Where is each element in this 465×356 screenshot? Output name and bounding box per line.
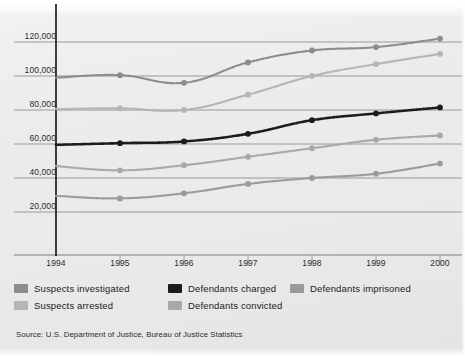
data-point-marker	[181, 80, 187, 86]
series-line	[56, 136, 440, 171]
chart-legend: Suspects investigatedSuspects arrestedDe…	[0, 283, 465, 323]
legend-label: Defendants charged	[188, 283, 276, 294]
x-tick-label: 1997	[238, 258, 257, 268]
x-tick-label: 1994	[46, 258, 65, 268]
data-point-marker	[437, 51, 443, 57]
data-point-marker	[437, 161, 443, 167]
x-tick-label: 1995	[110, 258, 129, 268]
series-line	[56, 164, 440, 199]
legend-color-swatch	[168, 284, 182, 293]
x-tick-label: 1996	[174, 258, 193, 268]
data-point-marker	[373, 137, 379, 143]
legend-item[interactable]: Suspects investigated	[14, 283, 130, 294]
series-defendants-convicted	[56, 133, 443, 174]
page-edge-bottom	[0, 348, 465, 356]
data-point-marker	[373, 171, 379, 177]
legend-item[interactable]: Defendants imprisoned	[290, 283, 411, 294]
data-point-marker	[309, 48, 315, 54]
data-point-marker	[117, 196, 123, 202]
data-point-marker	[373, 44, 379, 50]
legend-color-swatch	[14, 284, 28, 293]
data-point-marker	[245, 154, 251, 160]
y-tick-label: 100,000	[4, 65, 56, 75]
y-tick-label: 40,000	[4, 167, 56, 177]
y-axis-tick-labels: 20,00040,00060,00080,000100,000120,000	[0, 0, 56, 270]
data-point-marker	[373, 111, 379, 117]
legend-label: Suspects investigated	[34, 283, 130, 294]
legend-color-swatch	[14, 301, 28, 310]
data-point-marker	[437, 133, 443, 139]
legend-item[interactable]: Defendants convicted	[168, 300, 282, 311]
legend-label: Defendants convicted	[188, 300, 282, 311]
legend-color-swatch	[168, 301, 182, 310]
data-point-marker	[437, 36, 443, 42]
data-point-marker	[309, 145, 315, 151]
series-suspects-investigated	[56, 36, 443, 86]
data-point-marker	[437, 105, 443, 111]
data-point-marker	[181, 162, 187, 168]
legend-item[interactable]: Suspects arrested	[14, 300, 113, 311]
source-note: Source: U.S. Department of Justice, Bure…	[16, 330, 243, 339]
data-point-marker	[309, 117, 315, 123]
data-point-marker	[117, 167, 123, 173]
data-point-marker	[309, 73, 315, 79]
x-tick-label: 1999	[366, 258, 385, 268]
series-defendants-charged	[56, 105, 443, 147]
data-point-marker	[117, 72, 123, 78]
data-point-marker	[245, 181, 251, 187]
legend-label: Suspects arrested	[34, 300, 113, 311]
data-point-marker	[245, 92, 251, 98]
data-point-marker	[181, 107, 187, 113]
data-point-marker	[181, 190, 187, 196]
x-tick-label: 1998	[302, 258, 321, 268]
x-axis-tick-labels: 1994199519961997199819992000	[0, 258, 465, 274]
line-chart-svg	[0, 0, 465, 270]
legend-item[interactable]: Defendants charged	[168, 283, 276, 294]
data-point-marker	[181, 139, 187, 145]
y-tick-label: 80,000	[4, 99, 56, 109]
x-tick-label: 2000	[430, 258, 449, 268]
data-point-marker	[245, 60, 251, 66]
chart-page: 20,00040,00060,00080,000100,000120,000 1…	[0, 0, 465, 356]
legend-label: Defendants imprisoned	[310, 283, 411, 294]
chart-plot-area: 20,00040,00060,00080,000100,000120,000	[0, 0, 465, 270]
series-defendants-imprisoned	[56, 161, 443, 202]
legend-color-swatch	[290, 284, 304, 293]
y-tick-label: 60,000	[4, 133, 56, 143]
data-point-marker	[245, 131, 251, 137]
data-point-marker	[373, 61, 379, 67]
y-tick-label: 20,000	[4, 201, 56, 211]
data-point-marker	[309, 175, 315, 181]
data-point-marker	[117, 140, 123, 146]
data-point-marker	[117, 105, 123, 111]
y-tick-label: 120,000	[4, 31, 56, 41]
